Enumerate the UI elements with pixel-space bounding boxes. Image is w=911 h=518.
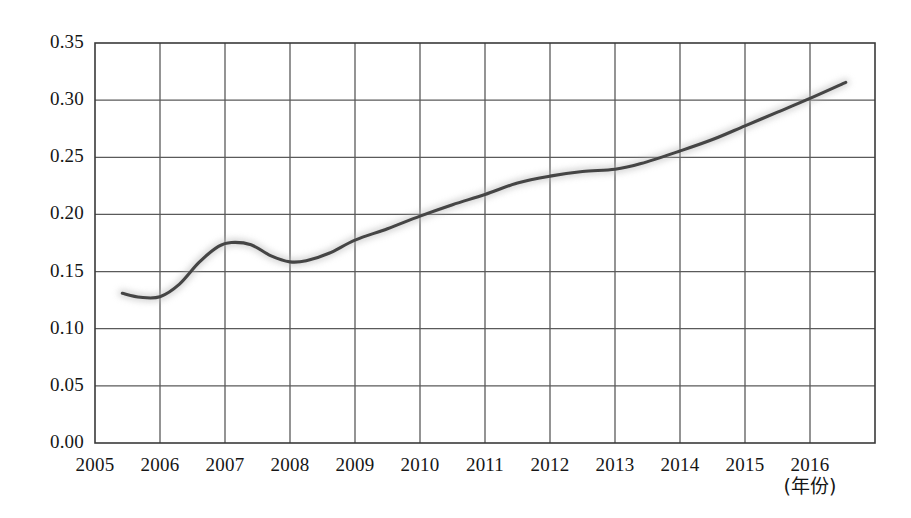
y-tick-label: 0.00: [14, 432, 84, 451]
y-tick-label: 0.30: [14, 89, 84, 108]
y-tick-label: 0.15: [14, 261, 84, 280]
series-line-halo: [122, 82, 845, 298]
y-tick-label: 0.25: [14, 146, 84, 165]
gridlines-vertical: [160, 43, 810, 443]
y-tick-label: 0.05: [14, 375, 84, 394]
x-axis-unit-label: (年份): [765, 476, 855, 497]
line-chart: 0.000.050.100.150.200.250.300.35 2005200…: [0, 0, 911, 518]
y-tick-label: 0.35: [14, 32, 84, 51]
chart-plot-area: [0, 0, 911, 518]
series-line: [122, 82, 845, 298]
y-tick-label: 0.20: [14, 203, 84, 222]
x-tick-label: 2016: [770, 454, 850, 475]
y-tick-label: 0.10: [14, 318, 84, 337]
